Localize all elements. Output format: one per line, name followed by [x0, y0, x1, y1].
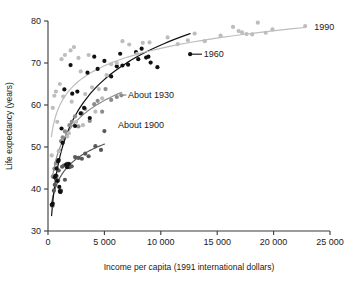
data-point: [147, 40, 151, 44]
data-point: [99, 148, 103, 152]
data-point: [256, 21, 260, 25]
data-point: [155, 65, 159, 69]
data-point: [85, 71, 89, 75]
series-annotation-1960: 1960: [204, 49, 224, 59]
data-point: [115, 61, 119, 65]
data-point: [68, 48, 72, 52]
data-point: [62, 87, 66, 91]
x-tick-label: 20 000: [260, 237, 288, 247]
data-point: [74, 120, 78, 124]
data-point: [109, 62, 113, 66]
data-point: [141, 41, 145, 45]
data-point: [176, 42, 180, 46]
data-point: [96, 99, 100, 103]
series-annotation-about-1930: About 1930: [128, 90, 174, 100]
data-point: [54, 166, 58, 170]
x-tick-label: 5 000: [93, 237, 116, 247]
data-point: [52, 189, 56, 193]
data-point: [135, 52, 139, 56]
data-point: [58, 82, 62, 86]
series-1990: [50, 21, 308, 158]
y-tick-label: 30: [31, 226, 41, 236]
chart-figure: 05 00010 00015 00020 00025 000 304050607…: [0, 0, 347, 285]
data-point: [88, 116, 92, 120]
y-tick-label: 50: [31, 142, 41, 152]
data-point: [120, 39, 124, 43]
data-point: [58, 190, 62, 194]
series-annotation-about-1900: About 1900: [118, 120, 164, 130]
data-point: [118, 52, 122, 56]
y-axis-title: Life expectancy (years): [4, 82, 14, 170]
data-point: [231, 25, 235, 29]
data-point: [59, 57, 63, 61]
data-point: [264, 31, 268, 35]
data-point: [127, 42, 131, 46]
data-point: [70, 100, 74, 104]
data-point: [109, 74, 113, 78]
data-point: [68, 63, 72, 67]
x-tick-label: 10 000: [147, 237, 175, 247]
data-points-layer: [50, 21, 308, 208]
data-point: [87, 154, 91, 158]
data-point: [100, 110, 104, 114]
data-point: [120, 63, 124, 67]
data-point: [63, 178, 67, 182]
data-point: [57, 158, 61, 162]
data-point: [97, 87, 101, 91]
data-point: [53, 183, 57, 187]
data-point: [67, 131, 71, 135]
data-point: [61, 135, 65, 139]
series-annotation-1990: 1990: [314, 22, 334, 32]
data-point: [79, 111, 83, 115]
data-point: [93, 110, 97, 114]
data-point: [303, 24, 307, 28]
data-point: [52, 94, 56, 98]
data-point: [70, 92, 74, 96]
data-point: [70, 120, 74, 124]
data-point: [57, 149, 61, 153]
data-point: [218, 34, 222, 38]
data-point: [61, 141, 65, 145]
data-point: [149, 60, 153, 64]
x-tick-label: 0: [45, 237, 50, 247]
data-point: [250, 32, 254, 36]
data-point: [115, 95, 119, 99]
data-point: [102, 129, 106, 133]
data-point: [193, 31, 197, 35]
data-point: [96, 67, 100, 71]
data-point: [59, 126, 63, 130]
data-point: [73, 114, 77, 118]
data-point: [81, 123, 85, 127]
series-annotations-layer: 19901960About 1930About 1900: [118, 22, 334, 130]
y-axis-ticks: 304050607080: [31, 16, 48, 236]
data-point: [100, 96, 104, 100]
data-point: [76, 56, 80, 60]
data-point: [92, 55, 96, 59]
x-axis-ticks: 05 00010 00015 00020 00025 000: [45, 231, 343, 247]
data-point: [67, 162, 71, 166]
scatter-plot-svg: 05 00010 00015 00020 00025 000 304050607…: [0, 0, 347, 285]
y-tick-label: 40: [31, 184, 41, 194]
data-point: [105, 73, 109, 77]
data-point: [73, 124, 77, 128]
data-point: [51, 106, 55, 110]
data-point: [61, 95, 65, 99]
data-point: [203, 39, 207, 43]
y-tick-label: 60: [31, 100, 41, 110]
data-point: [103, 87, 107, 91]
y-tick-label: 80: [31, 16, 41, 26]
data-point: [90, 85, 94, 89]
data-point: [146, 55, 150, 59]
data-point: [50, 153, 54, 157]
data-point: [54, 173, 58, 177]
data-point: [270, 27, 274, 31]
data-point: [55, 120, 59, 124]
data-point: [87, 53, 91, 57]
data-point: [240, 30, 244, 34]
data-point: [55, 179, 59, 183]
data-point: [83, 92, 87, 96]
data-point: [244, 32, 248, 36]
y-tick-label: 70: [31, 58, 41, 68]
x-tick-label: 25 000: [316, 237, 344, 247]
data-point: [54, 89, 58, 93]
